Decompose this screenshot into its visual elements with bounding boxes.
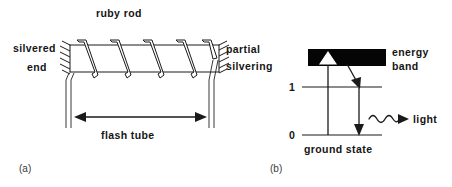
emission-arrowhead [354,124,364,136]
nonradiative-decay-arrow [347,64,361,89]
dimension-arrowhead-right [195,112,207,122]
partial-label-line1: partial [226,43,260,55]
energy-band-label-line1: energy [392,46,429,58]
ruby-rod-label: ruby rod [96,7,142,19]
level-1-label: 1 [289,81,295,93]
wave-arrowhead [398,114,409,124]
flash-tube-dimension [74,112,207,122]
ground-state-label: ground state [304,143,372,155]
panel-a-group: ruby rod silvered end partial silvering [13,7,273,174]
panel-b-group: energy band 1 0 [270,46,437,174]
lead-right-outer [214,60,218,128]
laser-figure-svg: ruby rod silvered end partial silvering [0,0,452,187]
panel-b-caption: (b) [270,163,282,174]
silvered-label-line1: silvered [13,42,56,54]
energy-band-label-line2: band [392,60,419,72]
emission-transition-arrow [354,88,364,136]
energy-band-rect [308,49,386,66]
lead-left-outer [66,73,69,128]
coil-strand-5 [202,40,217,59]
lead-right-inner [209,60,213,128]
panel-a-caption: (a) [19,163,31,174]
wave-squiggle [369,116,399,123]
figure-root: ruby rod silvered end partial silvering [0,0,452,187]
silvered-label-line2: end [27,61,47,73]
silvered-end-hatching [60,41,70,74]
light-label: light [413,113,437,125]
lead-left-inner [71,73,74,128]
partial-label-line2: silvering [226,60,273,72]
level-0-label: 0 [289,129,295,141]
pump-transition-arrow [320,52,336,135]
flash-tube-label: flash tube [101,129,155,141]
dimension-arrowhead-left [74,112,86,122]
light-emission-wave [369,114,409,124]
